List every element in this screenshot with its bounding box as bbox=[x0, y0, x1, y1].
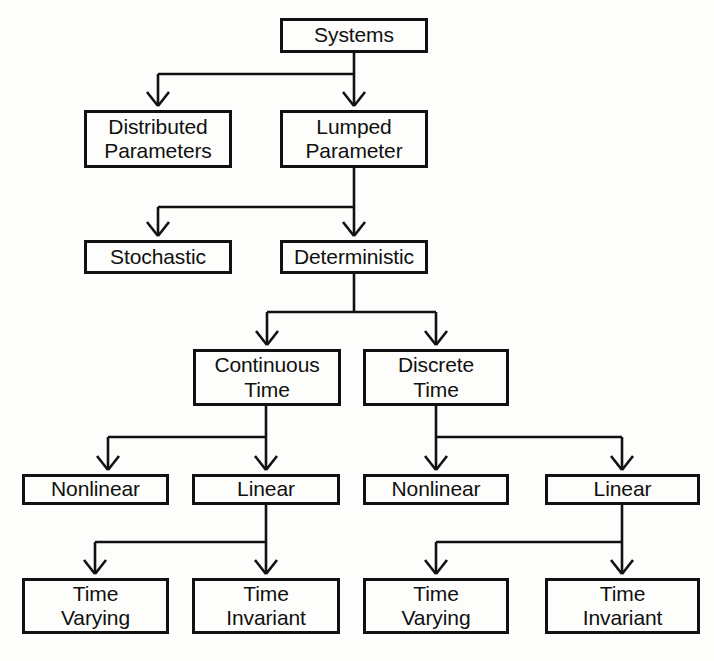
node-label-systems: Systems bbox=[310, 23, 398, 47]
node-label-dt-time-invariant: Time Invariant bbox=[579, 582, 667, 631]
node-dt-nonlinear: Nonlinear bbox=[363, 474, 509, 505]
node-label-continuous-time: Continuous Time bbox=[210, 353, 323, 402]
node-label-stochastic: Stochastic bbox=[106, 245, 210, 269]
node-systems: Systems bbox=[280, 18, 428, 53]
node-label-discrete-time: Discrete Time bbox=[394, 353, 478, 402]
node-label-ct-nonlinear: Nonlinear bbox=[47, 477, 144, 501]
node-label-ct-linear: Linear bbox=[233, 477, 299, 501]
node-ct-nonlinear: Nonlinear bbox=[22, 474, 169, 505]
node-ct-linear: Linear bbox=[192, 474, 340, 505]
node-label-ct-time-invariant: Time Invariant bbox=[222, 582, 310, 631]
node-discrete-time: Discrete Time bbox=[363, 349, 509, 406]
node-label-deterministic: Deterministic bbox=[290, 245, 418, 269]
node-label-lumped: Lumped Parameter bbox=[301, 115, 406, 164]
node-label-distributed: Distributed Parameters bbox=[100, 115, 216, 164]
node-label-ct-time-varying: Time Varying bbox=[57, 582, 134, 631]
node-dt-time-invariant: Time Invariant bbox=[545, 578, 700, 634]
node-ct-time-varying: Time Varying bbox=[22, 578, 169, 634]
node-ct-time-invariant: Time Invariant bbox=[192, 578, 340, 634]
node-label-dt-nonlinear: Nonlinear bbox=[388, 477, 485, 501]
node-dt-linear: Linear bbox=[545, 474, 700, 505]
node-label-dt-time-varying: Time Varying bbox=[398, 582, 475, 631]
diagram-edges bbox=[0, 0, 714, 661]
node-deterministic: Deterministic bbox=[280, 240, 428, 274]
node-continuous-time: Continuous Time bbox=[193, 349, 341, 406]
node-label-dt-linear: Linear bbox=[590, 477, 656, 501]
node-distributed: Distributed Parameters bbox=[84, 110, 232, 168]
node-dt-time-varying: Time Varying bbox=[363, 578, 509, 634]
systems-classification-diagram: SystemsDistributed ParametersLumped Para… bbox=[0, 0, 714, 661]
node-stochastic: Stochastic bbox=[84, 240, 232, 274]
node-lumped: Lumped Parameter bbox=[280, 110, 428, 168]
